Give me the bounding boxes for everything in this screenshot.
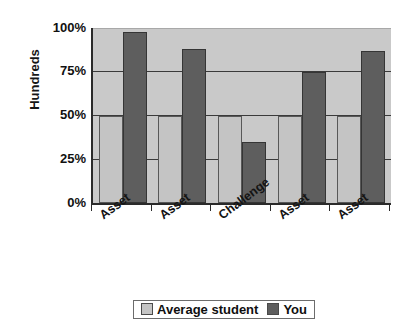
bar-you [182, 49, 206, 203]
legend-swatch-you [267, 303, 279, 315]
legend-swatch-average-student [141, 303, 153, 315]
bar-you [123, 32, 147, 204]
chart-legend: Average student You [133, 300, 315, 319]
y-axis-tick-labels: 100% 75% 50% 25% 0% [40, 0, 86, 333]
x-tickmark [151, 204, 152, 211]
bar-group [153, 28, 213, 203]
legend-label-you: You [283, 302, 307, 317]
bar-you [302, 72, 326, 203]
legend-item-average-student: Average student [141, 302, 258, 317]
bar-average-student [218, 116, 242, 204]
legend-item-you: You [267, 302, 307, 317]
y-tick-label-75: 75% [40, 64, 86, 77]
bar-chart: Hundreds 100% 75% 50% 25% 0% AssetAssetC… [0, 0, 411, 333]
bar-average-student [158, 116, 182, 204]
bar-group [93, 28, 153, 203]
plot-area [91, 28, 391, 205]
y-tick-label-25: 25% [40, 152, 86, 165]
bar-group [272, 28, 332, 203]
bar-groups [93, 28, 391, 203]
y-tick-label-50: 50% [40, 108, 86, 121]
y-tick-label-100: 100% [40, 21, 86, 34]
x-tickmark [389, 204, 390, 211]
x-tickmark [91, 204, 92, 211]
bar-average-student [99, 116, 123, 204]
bar-group [331, 28, 391, 203]
x-axis-labels: AssetAssetChallengeAssetAsset [91, 211, 391, 286]
bar-average-student [337, 116, 361, 204]
legend-label-average-student: Average student [157, 302, 258, 317]
bar-you [361, 51, 385, 203]
x-tickmark [210, 204, 211, 211]
x-tickmark [270, 204, 271, 211]
x-tickmark [329, 204, 330, 211]
bar-average-student [278, 116, 302, 204]
y-tick-label-0: 0% [40, 196, 86, 209]
